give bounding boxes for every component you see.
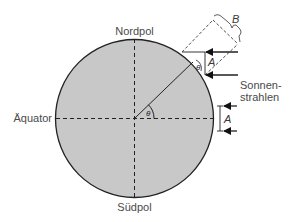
north-pole-label: Nordpol [115, 25, 154, 37]
equator-label: Äquator [13, 112, 52, 124]
sun-rays-label-2: strahlen [240, 91, 279, 103]
A-label-equator: A [223, 113, 231, 125]
sun-rays-label-1: Sonnen- [240, 79, 282, 91]
south-pole-label: Südpol [117, 201, 151, 213]
B-label: B [232, 13, 239, 25]
center-angle-label: θ [146, 109, 151, 118]
surface-angle-label: θ [196, 63, 201, 72]
earth-insolation-diagram: Nordpol Südpol Äquator Sonnen- strahlen … [0, 0, 295, 222]
A-label-top: A [207, 56, 215, 68]
beam-edge-left [182, 20, 213, 52]
